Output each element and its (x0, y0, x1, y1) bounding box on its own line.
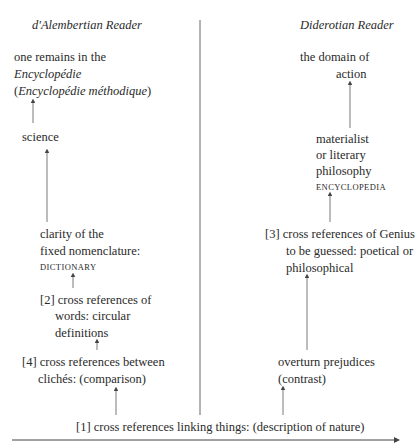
node-encyclopedie-line1: one remains in the (14, 49, 106, 66)
node-genius-line3: philosophical (286, 260, 353, 277)
node-encyclopedie-line2: Encyclopédie (14, 66, 81, 83)
header-diderotian-reader: Diderotian Reader (300, 17, 394, 34)
node-cliches-line1: [4] cross references between (22, 354, 165, 371)
node-philosophy-line3: philosophy (316, 163, 372, 180)
node-encyclopedie-line3: (Encyclopédie méthodique) (14, 83, 151, 100)
node-science: science (22, 129, 59, 146)
header-dalembertian-reader: d'Alembertian Reader (32, 17, 142, 34)
node-genius-line1: [3] cross references of Genius (265, 226, 415, 243)
node-genius-line2: to be guessed: poetical or (286, 243, 413, 260)
node-words-line2: words: circular (55, 308, 130, 325)
node-words-line1: [2] cross references of (40, 292, 151, 309)
node-philosophy-line2: or literary (316, 147, 366, 164)
node-clarity-line1: clarity of the (40, 226, 104, 243)
node-domain-line1: the domain of (300, 49, 369, 66)
node-words-line3: definitions (55, 325, 108, 342)
node-philosophy-line1: materialist (316, 131, 369, 148)
node-domain-line2: action (336, 66, 367, 83)
node-clarity-line2: fixed nomenclature: (40, 243, 140, 260)
tag-dictionary: DICTIONARY (40, 259, 96, 276)
node-prejudices-line2: (contrast) (278, 371, 326, 388)
node-prejudices-line1: overturn prejudices (278, 354, 375, 371)
node-cliches-line2: clichés: (comparison) (38, 371, 146, 388)
node-base-description-of-nature: [1] cross references linking things: (de… (76, 419, 364, 436)
tag-encyclopedia: ENCYCLOPEDIA (316, 179, 386, 196)
